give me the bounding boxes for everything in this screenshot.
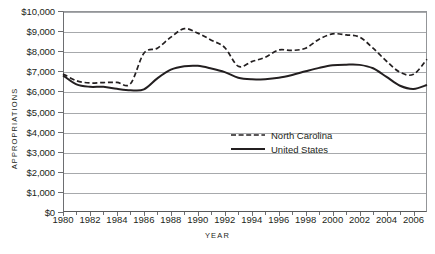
data-series-layer [63,11,427,212]
x-tickmark-minor [103,212,104,215]
x-tickmark [171,212,172,216]
x-tickmark [117,212,118,216]
x-tickmark-minor [211,212,212,215]
legend-label-north-carolina: North Carolina [271,130,332,141]
y-ticklabel: $7,000 [27,66,55,77]
x-tickmark [279,212,280,216]
x-tickmark-minor [373,212,374,215]
x-tickmark-minor [184,212,185,215]
x-tickmark [414,212,415,216]
x-tickmark-minor [292,212,293,215]
x-tickmark-minor [238,212,239,215]
y-ticklabel: $10,000 [21,6,55,17]
x-tickmark-minor [319,212,320,215]
x-tickmark [333,212,334,216]
x-tickmark-minor [76,212,77,215]
x-tickmark [63,212,64,216]
y-ticklabel: $3,000 [27,146,55,157]
y-ticklabel: $4,000 [27,126,55,137]
y-ticklabel: $9,000 [27,26,55,37]
y-ticklabel: $1,000 [27,186,55,197]
y-ticklabel: $8,000 [27,46,55,57]
x-tickmark-minor [157,212,158,215]
x-tickmark [90,212,91,216]
x-tickmark-minor [346,212,347,215]
y-ticklabel: $2,000 [27,166,55,177]
x-tickmark-minor [400,212,401,215]
legend-item-united-states: United States [231,142,332,156]
chart-legend: North Carolina United States [231,128,332,156]
series-line-north-carolina [63,29,427,86]
legend-swatch-solid [231,144,265,154]
x-tickmark-minor [265,212,266,215]
x-tickmark [198,212,199,216]
x-tickmark [387,212,388,216]
y-ticklabel: $5,000 [27,106,55,117]
x-axis-ticklabels: 1980198219841986198819901992199419961998… [0,214,435,230]
legend-label-united-states: United States [271,144,328,155]
line-chart: APPROPRIATIONS $0$1,000$2,000$3,000$4,00… [0,0,435,254]
x-tickmark [144,212,145,216]
legend-item-north-carolina: North Carolina [231,128,332,142]
x-tickmark [252,212,253,216]
x-tickmark-minor [130,212,131,215]
legend-swatch-dashed [231,130,265,140]
y-ticklabel: $6,000 [27,86,55,97]
x-tickmark [306,212,307,216]
series-line-united-states [63,65,427,91]
x-tickmark [360,212,361,216]
x-tickmark [225,212,226,216]
x-axis-title: YEAR [0,231,435,240]
